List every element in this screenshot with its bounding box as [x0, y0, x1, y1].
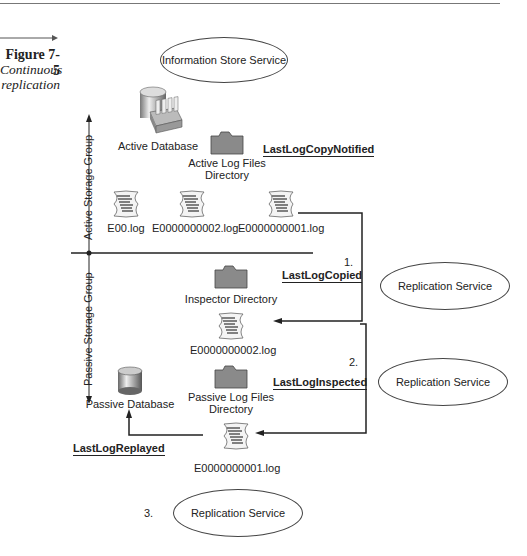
log-e0000000001-scroll-icon: [265, 190, 297, 220]
inspector-directory-label: Inspector Directory: [180, 293, 282, 305]
step3-arrow-icon: [126, 409, 132, 418]
replication-service-node-2: Replication Service: [378, 358, 508, 406]
log-e0000000001-label: E0000000001.log: [238, 222, 322, 234]
log-e00-scroll-icon: [110, 190, 142, 220]
log-e0000000002-scroll-icon: [176, 190, 208, 220]
last-log-replayed-marker: LastLogReplayed: [73, 442, 165, 456]
step1-arrow-icon: [273, 318, 282, 324]
passive-log-dir-line-2: Directory: [180, 403, 282, 415]
replication-service-node-1: Replication Service: [380, 262, 510, 310]
passive-log-folder-icon: [214, 365, 248, 389]
log-e0000000002-label: E0000000002.log: [152, 222, 234, 234]
active-log-dir-line-1: Active Log Files: [180, 157, 274, 169]
replication-service-label-2: Replication Service: [396, 376, 490, 388]
last-log-copy-notified-marker: LastLogCopyNotified: [263, 143, 374, 157]
replication-service-node-3: Replication Service: [173, 489, 303, 537]
step2-arrow-icon: [255, 430, 264, 436]
passive-database-label: Passive Database: [80, 398, 180, 410]
information-store-service-node: Information Store Service: [160, 37, 288, 83]
passive-log-dir-line-1: Passive Log Files: [180, 391, 282, 403]
inspector-folder-icon: [214, 265, 248, 289]
active-log-dir-line-2: Directory: [180, 169, 274, 181]
active-database-icon: [136, 86, 186, 136]
passive-storage-group-label: Passive Storage Group: [82, 272, 94, 386]
axis-origin-dot: [87, 251, 92, 256]
active-log-dir-label: Active Log Files Directory: [180, 157, 274, 181]
inspector-log-label: E0000000002.log: [190, 344, 272, 356]
passive-log-dir-label: Passive Log Files Directory: [180, 391, 282, 415]
active-database-label: Active Database: [117, 140, 199, 152]
replication-service-label-1: Replication Service: [398, 280, 492, 292]
inspector-log-scroll-icon: [215, 312, 247, 342]
active-storage-group-label: Active Storage Group: [82, 135, 94, 240]
step3-path: [129, 416, 203, 435]
last-log-inspected-marker: LastLogInspected: [273, 376, 367, 390]
information-store-service-label: Information Store Service: [162, 54, 286, 66]
axis-arrow-up-icon: [86, 114, 92, 122]
replication-service-label-3: Replication Service: [191, 507, 285, 519]
passive-log-label: E0000000001.log: [194, 462, 278, 474]
active-log-folder-icon: [210, 131, 244, 155]
step1-number: 1.: [344, 256, 353, 268]
passive-log-scroll-icon: [220, 422, 252, 452]
passive-database-icon: [116, 366, 144, 396]
last-log-copied-marker: LastLogCopied: [282, 269, 362, 283]
log-e00-label: E00.log: [100, 222, 152, 234]
step2-number: 2.: [349, 356, 358, 368]
step3-number: 3.: [144, 507, 153, 519]
